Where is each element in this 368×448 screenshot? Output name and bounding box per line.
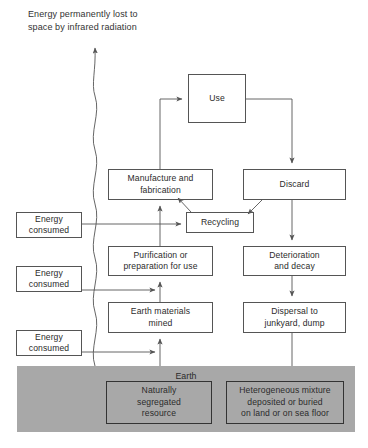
- node-dispersal-to-junkyard[interactable]: Dispersal to junkyard, dump: [243, 302, 346, 333]
- node-purification-or-preparation[interactable]: Purification or preparation for use: [108, 246, 213, 276]
- node-deterioration-label: Deterioration and decay: [267, 250, 322, 273]
- node-energy-consumed-1[interactable]: Energy consumed: [16, 212, 82, 238]
- earth-region-label: Earth: [17, 371, 355, 381]
- node-discard[interactable]: Discard: [243, 169, 346, 200]
- node-energy-consumed-3[interactable]: Energy consumed: [16, 330, 82, 356]
- energy-consumed-3-label: Energy consumed: [27, 332, 71, 355]
- node-earth-materials-label: Earth materials mined: [129, 306, 192, 329]
- node-earth-materials-mined[interactable]: Earth materials mined: [108, 302, 213, 333]
- node-recycling-label: Recycling: [199, 217, 241, 229]
- link-manufacture-to-use: [160, 99, 182, 169]
- energy-materials-flow-diagram: Energy permanently lost to space by infr…: [0, 0, 368, 448]
- node-manufacture-and-fabrication[interactable]: Manufacture and fabrication: [108, 169, 213, 200]
- node-discard-label: Discard: [278, 179, 312, 191]
- node-heterogeneous-mixture[interactable]: Heterogeneous mixture deposited or burie…: [226, 381, 344, 424]
- link-recycling-to-manufacture: [178, 198, 191, 212]
- node-use[interactable]: Use: [188, 74, 246, 123]
- node-dispersal-label: Dispersal to junkyard, dump: [262, 306, 326, 329]
- infrared-radiation-caption: Energy permanently lost to space by infr…: [28, 8, 138, 33]
- node-use-label: Use: [207, 93, 227, 105]
- node-purification-label: Purification or preparation for use: [121, 250, 199, 273]
- heterogeneous-mixture-label: Heterogeneous mixture deposited or burie…: [237, 385, 332, 420]
- energy-consumed-2-label: Energy consumed: [27, 268, 71, 291]
- node-naturally-segregated-resource[interactable]: Naturally segregated resource: [106, 381, 212, 424]
- node-deterioration-and-decay[interactable]: Deterioration and decay: [243, 246, 346, 276]
- natural-resource-label: Naturally segregated resource: [135, 385, 183, 420]
- node-manufacture-label: Manufacture and fabrication: [126, 173, 196, 196]
- node-recycling[interactable]: Recycling: [186, 212, 254, 233]
- node-energy-consumed-2[interactable]: Energy consumed: [16, 266, 82, 292]
- infrared-loss-wavy-line: [93, 48, 96, 366]
- link-use-to-discard: [246, 99, 292, 163]
- energy-consumed-1-label: Energy consumed: [27, 214, 71, 237]
